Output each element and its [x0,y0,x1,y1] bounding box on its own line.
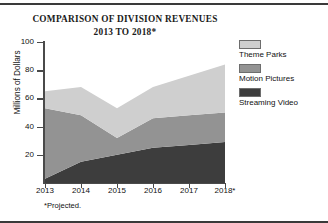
top-divider [0,3,328,5]
legend-item-streaming-video[interactable]: Streaming Video [239,88,327,108]
y-tick-mark [37,42,43,43]
x-tick-label: 2013 [29,186,61,195]
y-axis-title: Millions of Dollars [13,35,22,131]
x-tick-label: 2014 [65,186,97,195]
legend-item-theme-parks[interactable]: Theme Parks [239,40,327,60]
y-tick-label: 20 [8,151,34,159]
x-tick-label: 2017 [173,186,205,195]
x-tick-label: 2016 [137,186,169,195]
legend-swatch-icon [239,40,261,49]
title-line-1: COMPARISON OF DIVISION REVENUES [0,13,250,26]
x-tick-label: 2015 [101,186,133,195]
footnote: *Projected. [44,201,81,210]
legend-label-motion-pictures: Motion Pictures [239,74,327,84]
stacked-area-svg [45,42,225,183]
chart-legend: Theme Parks Motion Pictures Streaming Vi… [239,40,327,112]
y-tick-mark [37,98,43,99]
y-tick-mark [37,155,43,156]
bottom-divider [0,221,328,223]
legend-swatch-icon [239,64,261,73]
legend-item-motion-pictures[interactable]: Motion Pictures [239,64,327,84]
chart-title: COMPARISON OF DIVISION REVENUES 2013 TO … [0,13,250,38]
legend-label-theme-parks: Theme Parks [239,50,327,60]
title-line-2: 2013 TO 2018* [0,26,250,39]
y-tick-mark [37,70,43,71]
legend-label-streaming-video: Streaming Video [239,98,327,108]
y-tick-mark [37,127,43,128]
chart-figure: COMPARISON OF DIVISION REVENUES 2013 TO … [0,0,328,223]
legend-swatch-icon [239,88,261,97]
x-axis-line [43,183,225,185]
y-axis-line [43,41,45,184]
x-tick-label: 2018* [209,186,241,195]
plot-area [45,42,225,183]
